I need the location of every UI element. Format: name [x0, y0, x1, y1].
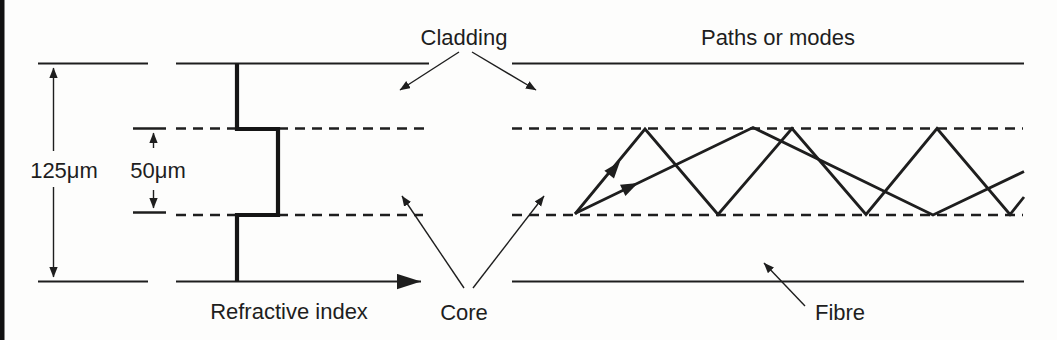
dim-50-label: 50μm — [130, 158, 185, 183]
paths-or-modes-label: Paths or modes — [701, 25, 855, 50]
dimension-50um: 50μm — [130, 129, 185, 213]
cladding-arrow-left — [400, 52, 459, 90]
cladding-label: Cladding — [421, 25, 508, 50]
ray-paths — [575, 128, 1024, 216]
fibre-outline — [38, 64, 1024, 282]
low-order-mode-ray — [575, 128, 1024, 216]
low-order-ray-arrowhead — [620, 177, 641, 196]
core-arrow-left — [402, 196, 464, 288]
fibre-diagram-svg: 125μm 50μm Cladding Paths o — [0, 0, 1057, 340]
core-arrow-right — [473, 196, 544, 288]
cladding-arrow-right — [472, 52, 536, 90]
refractive-index-step-profile — [237, 64, 278, 282]
high-order-mode-ray — [575, 129, 1024, 215]
dim-125-label: 125μm — [30, 158, 98, 183]
fibre-label: Fibre — [815, 300, 865, 325]
dimension-125um: 125μm — [30, 68, 98, 277]
refractive-index-label: Refractive index — [210, 299, 368, 324]
core-label: Core — [440, 300, 488, 325]
scan-edge-bar — [0, 0, 5, 340]
fibre-arrow — [764, 263, 805, 306]
fibre-diagram-canvas: 125μm 50μm Cladding Paths o — [0, 0, 1057, 340]
labels: Cladding Paths or modes Refractive index… — [210, 25, 865, 325]
